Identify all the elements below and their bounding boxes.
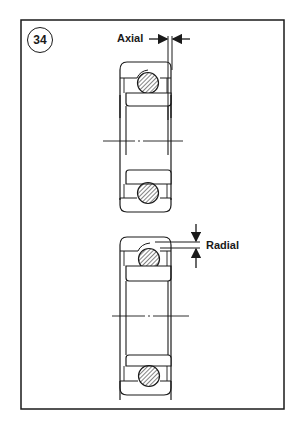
- radial-label: Radial: [206, 240, 239, 251]
- axial-label: Axial: [117, 33, 143, 44]
- ball-icon: [138, 73, 159, 94]
- figure-number-badge: 34: [27, 27, 53, 53]
- lower-bearing: [112, 224, 200, 400]
- ball-icon: [139, 366, 160, 387]
- ball-icon: [138, 183, 159, 204]
- upper-bearing: [103, 36, 190, 400]
- bearing-clearance-diagram: [0, 0, 301, 428]
